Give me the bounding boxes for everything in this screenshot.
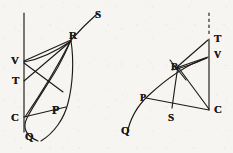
figure-page: S R V T P C Q T V R P C S Q bbox=[0, 0, 233, 153]
left-label-C: C bbox=[11, 112, 19, 123]
right-label-V: V bbox=[214, 50, 221, 60]
right-segment-r-t bbox=[177, 40, 208, 67]
right-segment-r-v bbox=[176, 57, 208, 68]
left-label-T: T bbox=[12, 75, 19, 86]
right-segment-c-r bbox=[178, 67, 209, 109]
left-label-S: S bbox=[95, 9, 101, 20]
right-label-R: R bbox=[171, 62, 178, 72]
right-arc-r-s bbox=[172, 66, 178, 108]
right-label-S: S bbox=[168, 112, 174, 123]
figure-canvas bbox=[0, 0, 233, 153]
left-ray-v-r bbox=[24, 40, 71, 61]
left-label-Q: Q bbox=[25, 131, 34, 142]
right-label-Q: Q bbox=[121, 125, 130, 136]
right-label-T: T bbox=[214, 33, 221, 44]
right-label-P: P bbox=[140, 93, 146, 103]
left-ray-v-r-curved bbox=[24, 41, 71, 62]
left-label-V: V bbox=[11, 55, 19, 66]
left-line-c-r bbox=[25, 42, 70, 117]
left-arc-right-bulge bbox=[41, 41, 73, 141]
right-label-C: C bbox=[214, 104, 222, 115]
left-label-R: R bbox=[69, 30, 77, 41]
left-diagram-strokes bbox=[24, 13, 98, 141]
right-arc-qprv bbox=[127, 58, 206, 134]
left-label-P: P bbox=[52, 104, 59, 116]
left-curve-qprs bbox=[25, 40, 71, 141]
right-segment-c-p bbox=[146, 98, 209, 110]
